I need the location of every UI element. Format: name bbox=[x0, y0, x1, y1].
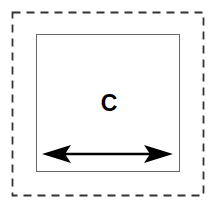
diagram-canvas: C bbox=[0, 0, 217, 210]
box-label: C bbox=[101, 90, 118, 116]
double-headed-arrow-icon bbox=[42, 145, 173, 163]
